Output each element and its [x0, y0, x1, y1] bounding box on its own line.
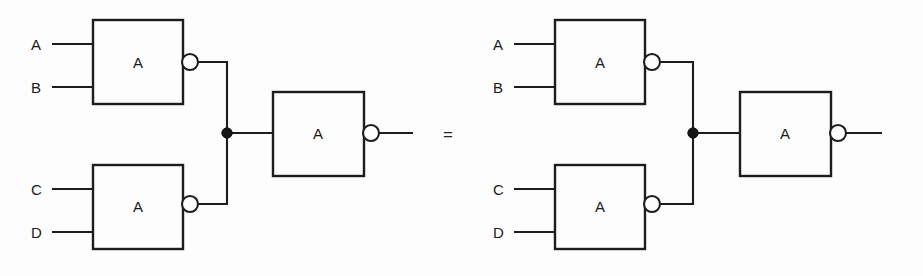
right-circuit: A B C D A A A — [493, 20, 882, 249]
input-label-d: D — [31, 224, 42, 241]
inverter-bubble-icon — [644, 196, 660, 212]
wire-junction-dot — [222, 128, 232, 138]
nand-gate-cd-label: A — [595, 198, 605, 215]
nand-gate-ab-label: A — [133, 54, 143, 71]
input-label-a: A — [31, 36, 41, 53]
inverter-bubble-icon — [182, 196, 198, 212]
wire-gate-ab-to-junction — [198, 62, 227, 133]
nand-gate-output-label: A — [313, 125, 323, 142]
input-label-b: B — [31, 79, 41, 96]
inverter-bubble-icon — [363, 125, 379, 141]
wire-gate-cd-to-junction — [198, 133, 227, 204]
input-label-a: A — [493, 36, 503, 53]
nand-gate-ab-label: A — [595, 54, 605, 71]
nand-gate-output-label: A — [780, 125, 790, 142]
logic-diagram-canvas: A B C D A A A = — [0, 0, 923, 276]
nand-gate-cd-label: A — [133, 198, 143, 215]
wire-gate-ab-to-junction — [660, 62, 693, 133]
wire-junction-dot — [688, 128, 698, 138]
input-label-b: B — [493, 79, 503, 96]
input-label-c: C — [493, 181, 504, 198]
equality-symbol: = — [443, 125, 453, 144]
logic-gate-equivalence-svg: A B C D A A A = — [0, 0, 923, 276]
inverter-bubble-icon — [182, 54, 198, 70]
input-label-d: D — [493, 224, 504, 241]
left-circuit: A B C D A A A — [31, 20, 413, 249]
inverter-bubble-icon — [644, 54, 660, 70]
inverter-bubble-icon — [830, 125, 846, 141]
input-label-c: C — [31, 181, 42, 198]
wire-gate-cd-to-junction — [660, 133, 693, 204]
